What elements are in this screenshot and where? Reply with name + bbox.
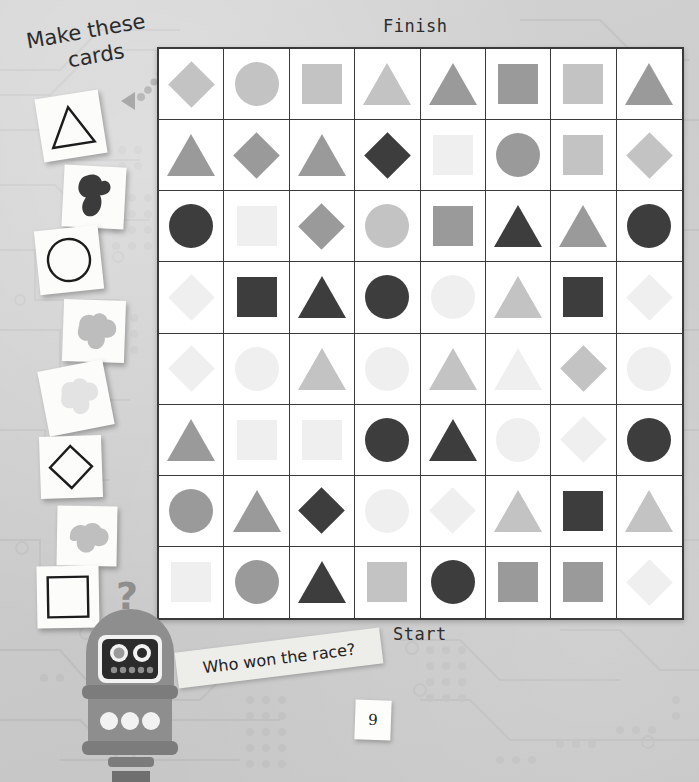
grid-cell[interactable] (617, 262, 682, 333)
grid-cell[interactable] (551, 547, 616, 618)
grid-cell[interactable] (224, 476, 289, 547)
grid-cell[interactable] (355, 49, 420, 120)
grid-cell[interactable] (421, 405, 486, 476)
grid-cell[interactable] (551, 334, 616, 405)
grid-cell[interactable] (224, 191, 289, 262)
diamond-medium-icon (233, 132, 280, 179)
diamond-verylight-icon (560, 416, 607, 463)
grid-cell[interactable] (159, 191, 224, 262)
grid-cell[interactable] (421, 476, 486, 547)
grid-cell[interactable] (355, 334, 420, 405)
card-diamond-blob[interactable] (56, 505, 117, 566)
circle-dark-icon (169, 204, 213, 248)
circle-dark-icon (365, 418, 409, 462)
grid-cell[interactable] (290, 49, 355, 120)
grid-cell[interactable] (224, 547, 289, 618)
grid-cell[interactable] (421, 334, 486, 405)
grid-cell[interactable] (290, 334, 355, 405)
diamond-verylight-icon (626, 274, 673, 321)
grid-cell[interactable] (290, 120, 355, 191)
grid-cell[interactable] (355, 476, 420, 547)
triangle-medium-icon (429, 63, 477, 105)
grid-cell[interactable] (224, 262, 289, 333)
triangle-light-icon (625, 490, 673, 532)
grid-cell[interactable] (159, 262, 224, 333)
grid-cell[interactable] (224, 405, 289, 476)
grid-cell[interactable] (551, 262, 616, 333)
grid-cell[interactable] (551, 120, 616, 191)
card-diamond-outline[interactable] (39, 435, 103, 499)
grid-cell[interactable] (617, 405, 682, 476)
grid-cell[interactable] (486, 49, 551, 120)
grid-cell[interactable] (421, 49, 486, 120)
grid-cell[interactable] (159, 120, 224, 191)
grid-cell[interactable] (355, 191, 420, 262)
grid-cell[interactable] (290, 547, 355, 618)
circle-outline-icon (40, 231, 97, 288)
grid-cell[interactable] (486, 262, 551, 333)
triangle-medium-icon (233, 490, 281, 532)
diamond-light-icon (560, 345, 607, 392)
grid-cell[interactable] (421, 262, 486, 333)
square-verylight-icon (433, 135, 473, 175)
grid-cell[interactable] (224, 49, 289, 120)
circle-medium-icon (496, 133, 540, 177)
grid-cell[interactable] (290, 262, 355, 333)
grid-cell[interactable] (486, 547, 551, 618)
grid-cell[interactable] (486, 476, 551, 547)
grid-cell[interactable] (355, 547, 420, 618)
circle-verylight-icon (496, 418, 540, 462)
grid-cell[interactable] (617, 476, 682, 547)
grid-cell[interactable] (355, 405, 420, 476)
grid-cell[interactable] (617, 49, 682, 120)
grid-cell[interactable] (421, 191, 486, 262)
grid-cell[interactable] (355, 120, 420, 191)
diamond-light-icon (168, 61, 215, 108)
grid-cell[interactable] (159, 405, 224, 476)
square-medium-icon (498, 64, 538, 104)
card-blank-blob[interactable] (37, 359, 114, 436)
grid-cell[interactable] (159, 476, 224, 547)
grid-cell[interactable] (486, 120, 551, 191)
shape-grid[interactable] (157, 47, 684, 620)
grid-cell[interactable] (486, 405, 551, 476)
square-medium-icon (563, 562, 603, 602)
square-dark-icon (563, 277, 603, 317)
grid-cell[interactable] (551, 476, 616, 547)
circle-verylight-icon (365, 347, 409, 391)
grid-cell[interactable] (421, 547, 486, 618)
grid-cell[interactable] (159, 334, 224, 405)
triangle-medium-icon (625, 63, 673, 105)
grid-cell[interactable] (617, 334, 682, 405)
grid-cell[interactable] (355, 262, 420, 333)
grid-cell[interactable] (290, 191, 355, 262)
grid-cell[interactable] (486, 334, 551, 405)
grid-cell[interactable] (551, 191, 616, 262)
grid-cell[interactable] (617, 191, 682, 262)
grid-cell[interactable] (159, 49, 224, 120)
robot-mascot: ? (72, 575, 192, 782)
grid-cell[interactable] (290, 476, 355, 547)
card-circle-blob[interactable] (62, 299, 126, 363)
grid-cell[interactable] (224, 334, 289, 405)
circle-verylight-icon (627, 347, 671, 391)
card-circle-outline[interactable] (34, 225, 104, 295)
grid-cell[interactable] (421, 120, 486, 191)
triangle-medium-icon (167, 134, 215, 176)
grid-cell[interactable] (290, 405, 355, 476)
grid-cell[interactable] (617, 547, 682, 618)
square-verylight-icon (237, 420, 277, 460)
grid-cell[interactable] (551, 49, 616, 120)
grid-cell[interactable] (551, 405, 616, 476)
triangle-light-icon (429, 348, 477, 390)
card-triangle-outline[interactable] (34, 89, 107, 162)
square-verylight-icon (237, 206, 277, 246)
grid-cell[interactable] (224, 120, 289, 191)
diamond-light-icon (626, 132, 673, 179)
grid-cell[interactable] (617, 120, 682, 191)
grid-cell[interactable] (486, 191, 551, 262)
square-dark-icon (237, 277, 277, 317)
card-triangle-blob[interactable] (61, 164, 126, 229)
diamond-verylight-icon (626, 559, 673, 606)
square-light-icon (563, 64, 603, 104)
